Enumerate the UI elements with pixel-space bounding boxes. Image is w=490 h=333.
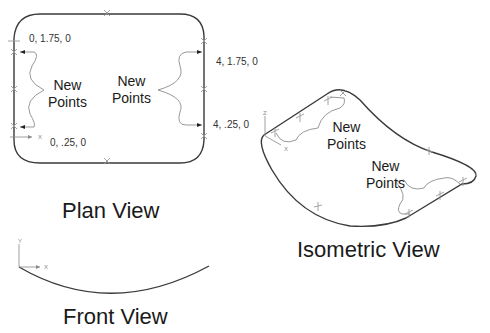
iso-bottom-callout: New Points	[366, 158, 405, 192]
plan-right-leader	[158, 52, 202, 125]
iso-axis	[265, 116, 281, 145]
plan-left-leader	[20, 52, 44, 127]
plan-view-title: Plan View	[62, 200, 159, 222]
iso-bottom-leader	[396, 178, 460, 214]
plan-left-callout: New Points	[48, 77, 87, 111]
front-axis-y-label: Y	[18, 238, 22, 244]
coord-top-right: 4, 1.75, 0	[216, 57, 258, 67]
front-axis	[19, 244, 40, 267]
coord-top-left: 0, 1.75, 0	[29, 34, 71, 44]
diagram-canvas	[0, 0, 490, 333]
coord-bottom-right: 4, .25, 0	[213, 120, 249, 130]
isometric-view-title: Isometric View	[297, 239, 440, 261]
front-view-curve	[19, 266, 209, 293]
coord-bottom-left: 0, .25, 0	[50, 138, 86, 148]
plan-axis-x-label: X	[38, 134, 42, 140]
front-view-title: Front View	[63, 306, 168, 328]
iso-axis-z-label: Z	[263, 110, 267, 116]
front-axis-x-label: X	[44, 264, 48, 270]
iso-top-callout: New Points	[327, 119, 366, 153]
plan-right-callout: New Points	[112, 73, 151, 107]
iso-axis-x-label: X	[284, 146, 288, 152]
